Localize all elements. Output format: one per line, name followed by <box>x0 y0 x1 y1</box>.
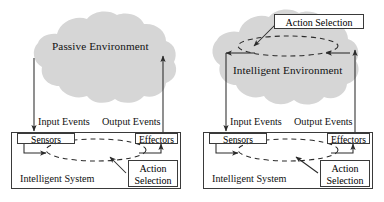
label-input-events: Input Events <box>38 117 90 127</box>
box-sensors: Sensors <box>17 133 75 144</box>
figure-root: Passive Environment Input Events Output … <box>0 0 384 202</box>
label-input-events: Input Events <box>230 117 282 127</box>
box-action-selection-environment: Action Selection <box>274 14 364 29</box>
label-intelligent-system: Intelligent System <box>212 174 286 184</box>
box-effectors: Effectors <box>327 133 370 144</box>
label-action-selection-environment: Action Selection <box>275 17 363 28</box>
label-output-events: Output Events <box>294 117 353 127</box>
panel-intelligent-environment: Action Selection Intelligent Environment… <box>192 0 384 202</box>
label-action-selection-line1: Action <box>129 163 177 175</box>
label-output-events: Output Events <box>102 117 161 127</box>
label-intelligent-system: Intelligent System <box>20 174 94 184</box>
cloud-passive-environment <box>34 12 176 103</box>
box-effectors: Effectors <box>135 133 178 144</box>
label-sensors: Sensors <box>18 135 74 146</box>
label-sensors: Sensors <box>210 135 266 146</box>
label-action-selection-line2: Selection <box>321 175 369 187</box>
cloud-label-intelligent-environment: Intelligent Environment <box>233 65 343 76</box>
label-action-selection-line2: Selection <box>129 175 177 187</box>
box-action-selection: Action Selection <box>320 160 370 187</box>
panel-passive-environment: Passive Environment Input Events Output … <box>0 0 192 202</box>
cloud-label-passive-environment: Passive Environment <box>52 41 149 52</box>
leader-action-selection <box>296 157 318 173</box>
label-effectors: Effectors <box>328 135 369 146</box>
label-action-selection-line1: Action <box>321 163 369 175</box>
box-sensors: Sensors <box>209 133 267 144</box>
box-action-selection: Action Selection <box>128 160 178 187</box>
label-effectors: Effectors <box>136 135 177 146</box>
